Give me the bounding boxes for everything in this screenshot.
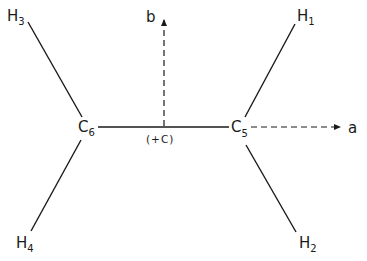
atom-label-h3: H3 [7, 7, 25, 27]
axis-label-b: b [146, 8, 156, 26]
atom-label-c6: C6 [78, 118, 95, 138]
atom-label-c5: C5 [231, 118, 248, 139]
bond-c6-h4 [31, 140, 81, 231]
molecule-diagram: H3 H4 H1 H2 C6 C5 b a (+C) [0, 0, 367, 261]
atom-label-h4: H4 [16, 234, 34, 254]
atom-label-h2: H2 [299, 234, 317, 254]
bond-c5-h2 [246, 145, 296, 232]
bond-c6-h3 [28, 22, 82, 117]
atom-label-h1: H1 [297, 7, 315, 27]
center-label: (+C) [146, 133, 174, 145]
bond-c5-h1 [245, 24, 295, 117]
axis-label-a: a [348, 119, 357, 137]
